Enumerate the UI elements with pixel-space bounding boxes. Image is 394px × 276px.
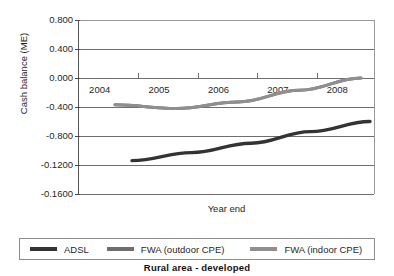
gridline: [79, 194, 374, 195]
series-line: [115, 78, 361, 108]
y-tick-label: -0.1600: [0, 188, 73, 199]
legend-swatch-icon: [30, 247, 57, 251]
chart-caption: Rural area - developed: [0, 262, 394, 273]
y-tick-label: 0.400: [0, 43, 73, 54]
y-tick-label: 0.000: [0, 72, 73, 83]
series-line: [115, 78, 361, 108]
chart-figure: Cash balance (ME) 0.8000.4000.000-0.400-…: [0, 0, 394, 276]
legend-swatch-icon: [250, 247, 277, 251]
legend-swatch-icon: [107, 247, 134, 251]
y-tick-label: 0.800: [0, 14, 73, 25]
legend-label: ADSL: [64, 244, 89, 255]
x-axis-title: Year end: [78, 203, 375, 214]
y-tick-label: -0.1200: [0, 159, 73, 170]
legend-item[interactable]: FWA (indoor CPE): [250, 244, 362, 255]
legend-label: FWA (indoor CPE): [284, 244, 362, 255]
y-tick-label: -0.400: [0, 101, 73, 112]
legend-item[interactable]: FWA (outdoor CPE): [107, 244, 225, 255]
series-lines: [78, 20, 375, 194]
y-tick-mark: [75, 194, 80, 195]
series-line: [132, 122, 370, 161]
legend-label: FWA (outdoor CPE): [141, 244, 225, 255]
chart-legend: ADSLFWA (outdoor CPE)FWA (indoor CPE): [19, 238, 375, 260]
legend-item[interactable]: ADSL: [30, 244, 89, 255]
y-tick-label: -0.800: [0, 130, 73, 141]
